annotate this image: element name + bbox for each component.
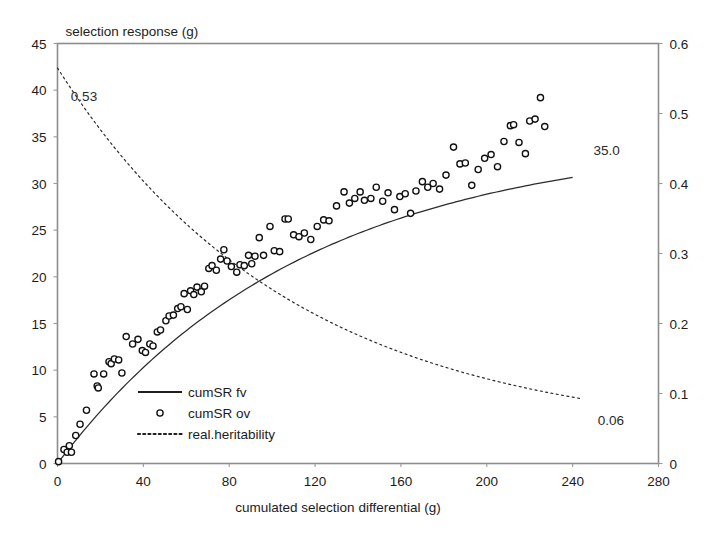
data-point (430, 180, 436, 186)
x-axis-title: cumulated selection differential (g) (235, 500, 440, 515)
data-point (436, 186, 442, 192)
y-tick-label: 45 (31, 37, 46, 52)
y-tick-label: 35 (31, 130, 46, 145)
data-point (285, 216, 291, 222)
data-point (341, 189, 347, 195)
data-point (462, 160, 468, 166)
data-point (260, 252, 266, 258)
data-point (413, 188, 419, 194)
y-right-tick-label: 0 (670, 457, 678, 472)
legend-label-1: cumSR ov (188, 406, 251, 421)
legend-marker-open-circle-icon (157, 410, 163, 416)
y-right-tick-label: 0.1 (670, 387, 689, 402)
data-point (83, 407, 89, 413)
data-point (228, 263, 234, 269)
data-point (352, 195, 358, 201)
data-point (522, 151, 528, 157)
data-point (119, 370, 125, 376)
data-point (221, 247, 227, 253)
x-tick-label: 80 (222, 474, 237, 489)
annotation-0-53: 0.53 (71, 89, 97, 104)
data-point (488, 151, 494, 157)
data-point (116, 357, 122, 363)
data-point (55, 459, 61, 465)
y-right-tick-label: 0.3 (670, 247, 689, 262)
data-point (224, 258, 230, 264)
data-point (95, 385, 101, 391)
x-tick-label: 120 (304, 474, 327, 489)
data-point (407, 210, 413, 216)
data-point (249, 261, 255, 267)
data-point (542, 123, 548, 129)
y-right-tick-label: 0.6 (670, 37, 689, 52)
data-point (213, 267, 219, 273)
annotation-0-06: 0.06 (598, 413, 624, 428)
data-point (511, 122, 517, 128)
data-point (333, 203, 339, 209)
x-tick-label: 240 (561, 474, 584, 489)
data-point (201, 283, 207, 289)
legend-label-0: cumSR fv (188, 385, 247, 400)
data-point (308, 236, 314, 242)
x-tick-label: 160 (390, 474, 413, 489)
x-tick-label: 0 (54, 474, 62, 489)
data-point (326, 218, 332, 224)
y-tick-label: 0 (39, 457, 47, 472)
data-point (241, 263, 247, 269)
y-right-tick-label: 0.4 (670, 177, 689, 192)
legend-label-2: real.heritability (188, 427, 275, 442)
data-point (252, 253, 258, 259)
data-point (68, 449, 74, 455)
data-point (73, 432, 79, 438)
data-point (91, 371, 97, 377)
data-point (402, 191, 408, 197)
chart-background (0, 0, 724, 535)
y-tick-label: 20 (31, 270, 46, 285)
data-point (101, 371, 107, 377)
data-point (181, 291, 187, 297)
data-point (475, 166, 481, 172)
data-point (482, 155, 488, 161)
data-point (66, 443, 72, 449)
y-tick-label: 10 (31, 363, 46, 378)
y-tick-label: 40 (31, 83, 46, 98)
data-point (373, 184, 379, 190)
data-point (301, 230, 307, 236)
data-point (380, 198, 386, 204)
data-point (314, 223, 320, 229)
x-tick-label: 200 (476, 474, 499, 489)
y-tick-label: 30 (31, 177, 46, 192)
data-point (450, 144, 456, 150)
data-point (256, 235, 262, 241)
data-point (516, 139, 522, 145)
data-point (419, 179, 425, 185)
data-point (361, 197, 367, 203)
data-point (267, 223, 273, 229)
data-point (135, 336, 141, 342)
data-point (494, 164, 500, 170)
data-point (218, 256, 224, 262)
y-tick-label: 15 (31, 317, 46, 332)
y-right-tick-label: 0.5 (670, 107, 689, 122)
data-point (245, 252, 251, 258)
data-point (537, 95, 543, 101)
data-point (443, 172, 449, 178)
data-point (501, 138, 507, 144)
y-tick-label: 25 (31, 223, 46, 238)
data-point (170, 312, 176, 318)
x-tick-label: 280 (647, 474, 670, 489)
data-point (184, 306, 190, 312)
data-point (391, 207, 397, 213)
data-point (385, 190, 391, 196)
data-point (469, 182, 475, 188)
data-point (234, 269, 240, 275)
data-point (142, 349, 148, 355)
data-point (368, 195, 374, 201)
data-point (123, 333, 129, 339)
chart-figure: 0408012016020024028005101520253035404500… (0, 0, 724, 535)
data-point (77, 421, 83, 427)
data-point (130, 341, 136, 347)
data-point (346, 200, 352, 206)
data-point (157, 327, 163, 333)
data-point (357, 189, 363, 195)
